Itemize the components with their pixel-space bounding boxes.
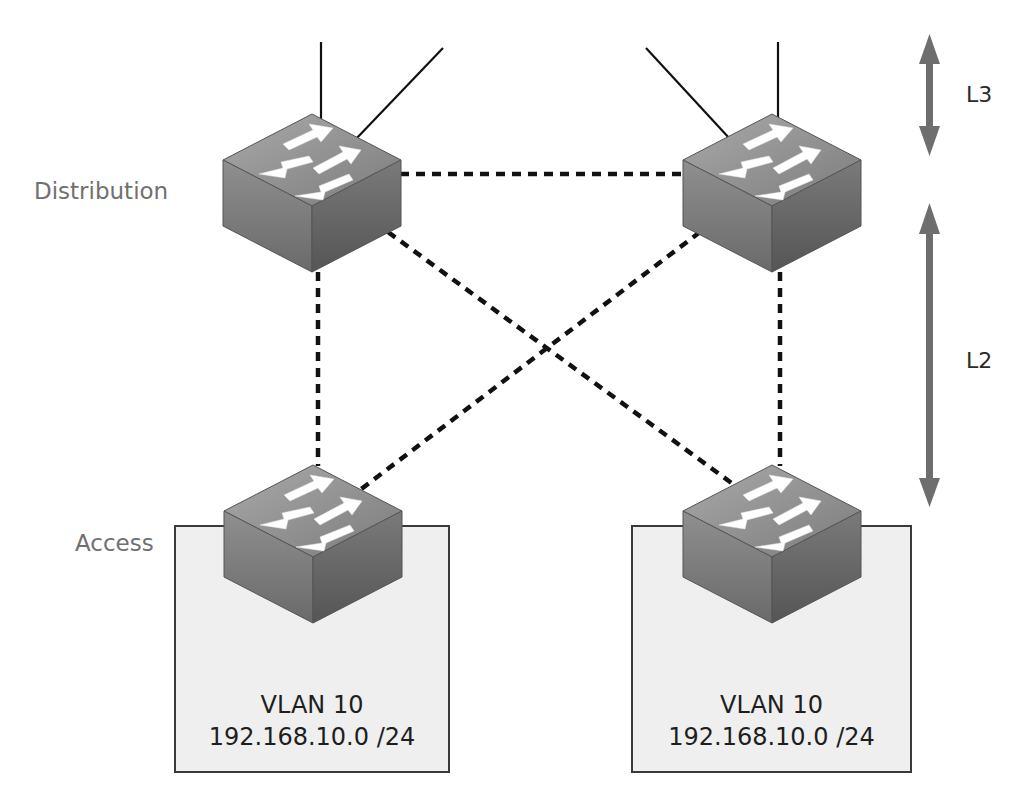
vlan-subnet: 192.168.10.0 /24 bbox=[633, 721, 910, 753]
access-tier-label: Access bbox=[75, 530, 154, 556]
access-switch-left[interactable] bbox=[222, 463, 404, 625]
vlan-name: VLAN 10 bbox=[633, 689, 910, 721]
vlan-subnet: 192.168.10.0 /24 bbox=[176, 721, 448, 753]
switch-icon bbox=[683, 114, 861, 272]
distribution-switch-right[interactable] bbox=[681, 112, 863, 274]
cross-link-right-to-left bbox=[360, 232, 700, 490]
access-switch-right[interactable] bbox=[681, 463, 863, 625]
l3-label: L3 bbox=[966, 82, 992, 107]
l2-range-arrow bbox=[919, 203, 940, 507]
distribution-tier-label: Distribution bbox=[34, 178, 168, 204]
switch-icon bbox=[223, 114, 401, 272]
vlan-name: VLAN 10 bbox=[176, 689, 448, 721]
switch-icon bbox=[683, 465, 861, 623]
switch-icon bbox=[224, 465, 402, 623]
l2-label: L2 bbox=[966, 348, 992, 373]
l3-range-arrow bbox=[919, 34, 940, 156]
distribution-switch-left[interactable] bbox=[221, 112, 403, 274]
